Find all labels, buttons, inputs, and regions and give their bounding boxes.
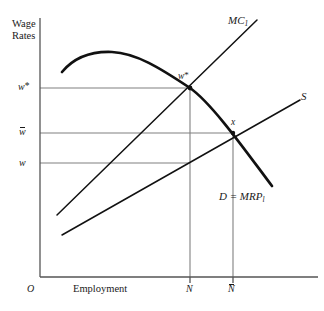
monopsony-diagram: Wage Rates Employment O w* w w N N MC1 S… [0,0,324,311]
y-axis-title-line2: Rates [12,30,36,42]
origin-label: O [27,283,34,294]
curve-label-supply: S [301,90,307,102]
supply-curve [62,100,300,235]
y-tick-base-w-star: w [18,81,25,92]
x-axis-ticks [190,277,233,283]
curve-label-supply-base: S [301,90,307,102]
w-star-point-marker [188,86,193,91]
point-label-w-star: w* [178,70,189,82]
point-label-x-base: x [231,117,235,127]
guide-lines-vertical [190,88,233,277]
curve-label-marginal-cost: MC1 [228,14,248,28]
x-tick-base-N-bar: N [228,283,235,294]
x-tick-label-N: N [186,283,193,294]
curve-label-mc-subscript: 1 [245,19,249,28]
curve-label-demand-subscript: l [262,195,264,204]
y-axis-title-line1: Wage [12,18,36,30]
y-tick-base-w-low: w [19,157,26,168]
y-axis-title: Wage Rates [12,18,36,42]
y-tick-label-w-bar: w [19,126,26,137]
y-tick-label-w-low: w [19,157,26,168]
curve-label-demand-base: D = MRP [219,190,262,202]
y-tick-label-w-star: w* [18,81,29,92]
curve-label-mc-base: MC [228,14,245,26]
diagram-canvas [0,0,324,311]
y-tick-base-w-bar: w [19,126,26,137]
x-tick-base-N: N [186,283,193,294]
curve-label-demand: D = MRPl [219,190,265,204]
x-tick-label-N-bar: N [228,283,235,294]
point-label-w-star-superscript: * [184,70,189,80]
point-label-x: x [231,117,235,128]
x-point-marker [231,131,235,135]
marginal-cost-curve [57,20,257,215]
y-tick-superscript-w-star: * [25,81,30,91]
x-axis-title: Employment [73,283,127,295]
demand-curve [62,52,272,186]
